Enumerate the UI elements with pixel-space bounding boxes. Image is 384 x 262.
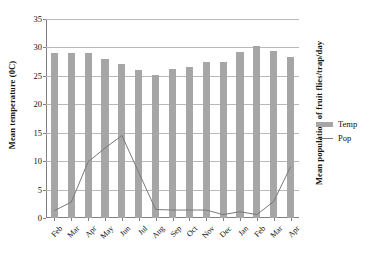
x-axis-tick-mark [223,218,224,221]
x-axis-tick-label: Sep [168,224,183,239]
y-axis-tick-mark [43,218,46,219]
legend-item-temp: Temp [316,117,382,131]
x-axis-tick-label: Feb [50,224,65,239]
chart-figure: Mean temperature (0C) Mean population of… [0,0,384,262]
x-axis-tick-label: Apr [286,224,301,239]
legend-bar-swatch-icon [316,122,333,127]
x-axis-tick-mark [206,218,207,221]
x-axis-tick-label: Jan [236,224,250,238]
x-axis-tick-label: Apr [83,224,98,239]
y-axis-tick-label: 30 [34,42,43,52]
y-axis-tick-label: 15 [34,128,43,138]
x-axis-tick-label: Aug [150,224,166,240]
x-axis-tick-mark [173,218,174,221]
chart-legend: Temp Pop [316,117,382,145]
legend-item-pop: Pop [316,131,382,145]
x-axis-tick-label: Jul [136,224,149,237]
legend-label-temp: Temp [338,119,357,129]
x-axis-labels: FebMarAprMayJunJulAugSepOctNovDecJanFebM… [46,220,299,260]
pop-line-path [54,136,290,215]
x-axis-tick-label: Mar [268,224,284,240]
x-axis-tick-mark [71,218,72,221]
x-axis-tick-label: Oct [185,224,200,239]
y-axis-tick-label: 0 [38,213,42,223]
y-axis-tick-label: 20 [34,99,43,109]
x-axis-tick-label: Nov [200,224,216,240]
line-series-pop [46,19,299,218]
x-axis-tick-mark [274,218,275,221]
x-axis-tick-label: Jun [118,224,132,238]
x-axis-tick-mark [54,218,55,221]
x-axis-tick-label: May [99,224,116,241]
x-axis-tick-mark [240,218,241,221]
plot-area: 05101520253035 [46,19,299,218]
x-axis-tick-mark [139,218,140,221]
x-axis-tick-mark [257,218,258,221]
x-axis-tick-mark [291,218,292,221]
x-axis-tick-mark [88,218,89,221]
y-axis-tick-label: 10 [34,156,43,166]
y-axis-tick-label: 25 [34,71,43,81]
x-axis-tick-mark [156,218,157,221]
x-axis-tick-mark [189,218,190,221]
y-axis-tick-label: 35 [34,14,43,24]
y-axis-tick-label: 5 [38,185,42,195]
x-axis-tick-label: Feb [252,224,267,239]
x-axis-tick-mark [122,218,123,221]
y-axis-right-title: Mean population of fruit flies/trap/day [314,33,324,193]
x-axis-tick-mark [105,218,106,221]
x-axis-tick-label: Mar [66,224,82,240]
legend-line-swatch-icon [316,138,333,139]
legend-label-pop: Pop [338,133,351,143]
x-axis-tick-label: Dec [218,224,233,239]
y-axis-left-title: Mean temperature (0C) [7,35,17,175]
